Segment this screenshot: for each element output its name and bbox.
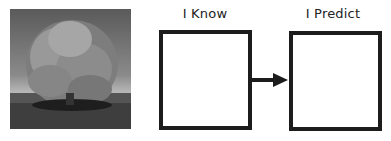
i-know-box[interactable] <box>159 30 252 130</box>
i-predict-label: I Predict <box>283 6 383 21</box>
tree-photo <box>10 9 131 129</box>
i-predict-box[interactable] <box>289 31 382 131</box>
i-know-label: I Know <box>155 6 255 21</box>
tree-icon <box>10 9 131 129</box>
arrow-right-icon <box>251 72 289 88</box>
